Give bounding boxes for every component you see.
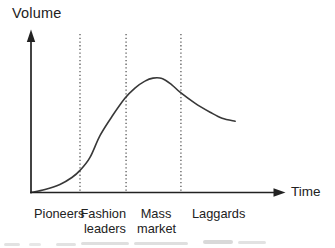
- y-axis-arrowhead: [27, 30, 35, 43]
- volume-curve: [31, 78, 235, 193]
- phase-label-laggards: Laggards: [192, 206, 245, 221]
- y-axis-label: Volume: [12, 5, 62, 21]
- x-axis-label: Time: [291, 184, 321, 199]
- phase-label-mass-market: Mass market: [137, 206, 175, 236]
- diffusion-curve-figure: Volume Time Pioneers Fashion leaders Mas…: [0, 0, 335, 248]
- phase-label-fashion-leaders: Fashion leaders: [80, 206, 126, 236]
- phase-label-pioneers: Pioneers: [34, 206, 85, 221]
- x-axis-arrowhead: [274, 188, 286, 197]
- y-axis: [27, 30, 35, 193]
- phase-boundary-lines: [80, 34, 181, 193]
- x-axis: [31, 188, 286, 197]
